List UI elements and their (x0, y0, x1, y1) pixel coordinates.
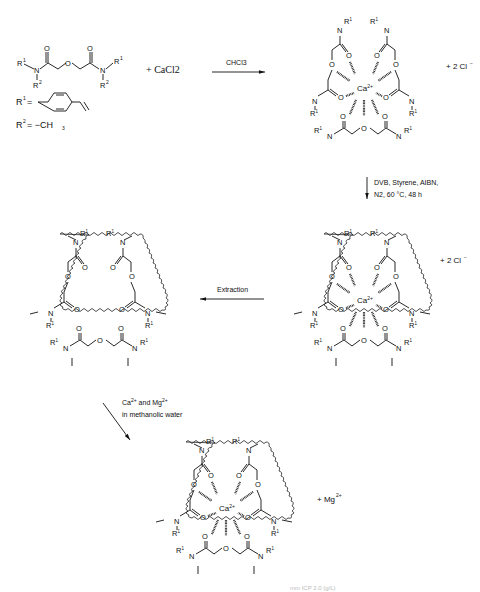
ca-complex (310, 17, 417, 141)
svg-text:O: O (87, 44, 93, 53)
condition-rebinding-1: Ca2+ and Mg2+ (122, 397, 168, 407)
condition-rebinding-2: in methanolic water (122, 411, 183, 418)
counter-ion-chloride: + 2 Cl (446, 62, 467, 71)
byproduct-mg: + Mg (317, 495, 335, 504)
r1-definition: R 1 = (16, 93, 89, 111)
svg-text:R: R (16, 97, 23, 107)
svg-text:−: − (470, 60, 473, 66)
imprinted-polymer-with-ca (294, 229, 432, 366)
svg-text:= −CH: = −CH (27, 120, 53, 130)
svg-text:1: 1 (23, 57, 26, 63)
imprinted-polymer-empty (30, 229, 168, 366)
svg-text:O: O (44, 44, 50, 53)
counter-ion-chloride-2: + 2 Cl (440, 256, 461, 265)
condition-chcl3: CHCl3 (226, 59, 247, 66)
ligand-molecule: N R 1 R 2 O O O N R 1 R 2 (17, 44, 123, 90)
svg-text:2: 2 (39, 79, 42, 85)
atom-n: N (34, 66, 39, 75)
svg-text:2+: 2+ (336, 492, 342, 498)
caption-fragment: mm ICP 2.0 (g/L) (290, 585, 336, 591)
rebound-polymer (156, 437, 294, 574)
svg-text:3: 3 (62, 125, 65, 131)
svg-text:N: N (100, 66, 105, 75)
plus-cacl2: + CaCl2 (146, 64, 180, 75)
condition-polymerization-1: DVB, Styrene, AIBN, (374, 179, 438, 187)
svg-text:R: R (16, 120, 23, 130)
svg-text:1: 1 (120, 55, 123, 61)
svg-text:=: = (27, 97, 32, 107)
svg-text:−: − (464, 254, 467, 260)
condition-extraction: Extraction (217, 286, 248, 293)
svg-text:2: 2 (23, 118, 26, 124)
condition-polymerization-2: N2, 60 °C, 48 h (374, 191, 422, 198)
r2-definition: R 2 = −CH 3 (16, 118, 65, 131)
reaction-scheme: N R 1 R 2 O O O N R 1 R 2 + CaCl2 R 1 = … (0, 0, 480, 592)
svg-text:1: 1 (23, 95, 26, 101)
svg-text:O: O (65, 59, 71, 68)
arrow-rebinding (103, 403, 130, 440)
svg-text:2: 2 (106, 79, 109, 85)
